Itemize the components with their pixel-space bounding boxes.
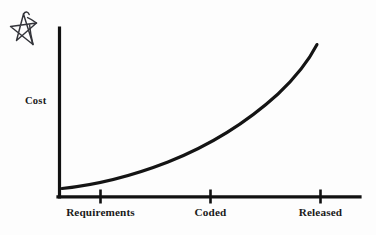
cost-of-change-chart: Cost Requirements Coded Released — [0, 0, 376, 235]
star-sketch-icon — [11, 12, 37, 45]
y-axis-label: Cost — [25, 95, 47, 106]
x-label-requirements: Requirements — [66, 206, 135, 218]
x-label-coded: Coded — [195, 206, 227, 218]
x-label-released: Released — [299, 206, 343, 218]
cost-curve — [62, 45, 317, 189]
